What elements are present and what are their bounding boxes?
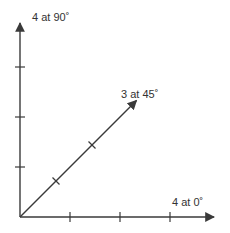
diagonal-vector-label: 3 at 45˚ (121, 88, 158, 100)
diagonal-vector-line (20, 101, 137, 218)
x-vector-label: 4 at 0˚ (172, 196, 203, 208)
vector-diagram: 4 at 0˚ 4 at 90˚ 3 at 45˚ (0, 0, 230, 233)
vectors-layer (15, 23, 214, 222)
y-vector-label: 4 at 90˚ (32, 11, 69, 23)
